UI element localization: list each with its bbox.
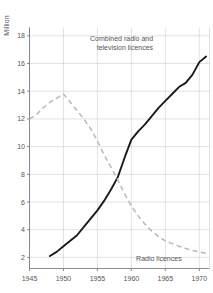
data-series bbox=[30, 57, 207, 256]
radio-series-label: Radio licences bbox=[136, 255, 182, 262]
combined-series-label: Combined radio andtelevision licences bbox=[90, 35, 154, 51]
x-tick-label: 1945 bbox=[22, 275, 38, 282]
y-tick-label: 10 bbox=[17, 143, 25, 150]
x-tick-label: 1970 bbox=[192, 275, 208, 282]
y-tick-label: 2 bbox=[21, 254, 25, 261]
gridlines bbox=[30, 28, 210, 269]
x-tick-label: 1955 bbox=[90, 275, 106, 282]
y-axis-title: Million bbox=[3, 4, 10, 48]
line-chart: 24681012141618 194519501955196019651970 … bbox=[0, 0, 213, 293]
y-tick-label: 6 bbox=[21, 199, 25, 206]
series-line-combined-licences bbox=[50, 57, 206, 256]
y-tick-label: 18 bbox=[17, 32, 25, 39]
y-tick-label: 4 bbox=[21, 226, 25, 233]
x-tick-labels: 194519501955196019651970 bbox=[22, 275, 207, 282]
x-tick-label: 1960 bbox=[124, 275, 140, 282]
series-line-radio-licences bbox=[30, 94, 207, 253]
y-tick-label: 8 bbox=[21, 171, 25, 178]
y-tick-label: 16 bbox=[17, 60, 25, 67]
series-annotations: Combined radio andtelevision licencesRad… bbox=[90, 35, 182, 262]
x-tick-label: 1950 bbox=[56, 275, 72, 282]
y-tick-label: 14 bbox=[17, 88, 25, 95]
tick-marks bbox=[27, 36, 199, 271]
chart-container: Million 24681012141618 19451950195519601… bbox=[0, 0, 213, 293]
y-tick-label: 12 bbox=[17, 115, 25, 122]
y-tick-labels: 24681012141618 bbox=[17, 32, 25, 261]
x-tick-label: 1965 bbox=[158, 275, 174, 282]
